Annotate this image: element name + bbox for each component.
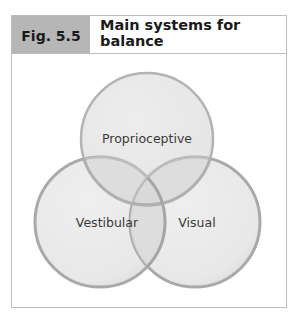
venn-diagram: Proprioceptive Vestibular Visual xyxy=(0,0,305,316)
label-vestibular: Vestibular xyxy=(76,215,139,230)
label-visual: Visual xyxy=(178,215,215,230)
label-proprioceptive: Proprioceptive xyxy=(102,131,192,146)
